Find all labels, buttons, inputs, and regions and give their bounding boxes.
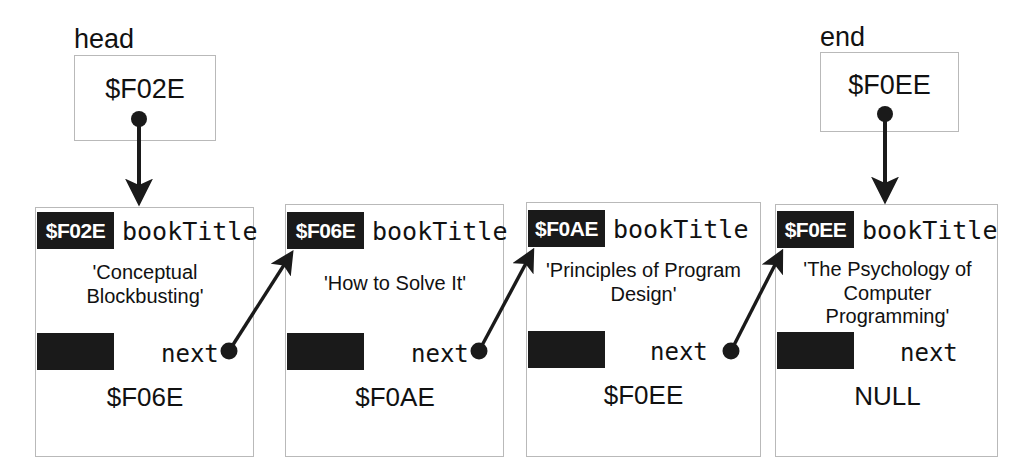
node-field-next-label: next [900,341,958,365]
node-filler-block [528,331,605,368]
linked-list-diagram: head $F02E end $F0EE $F02E bookTitle 'Co… [0,0,1033,457]
node-field-booktitle-label: bookTitle [372,219,507,244]
node-field-booktitle-label: bookTitle [862,218,997,243]
node-next-value: $F0EE [526,382,761,408]
node-booktitle-value: 'How to Solve It' [287,272,503,296]
node-booktitle-value: 'Principles of Program Design' [526,259,761,306]
node-field-booktitle-label: bookTitle [613,217,748,242]
node-filler-block [777,332,854,369]
node-filler-block [37,333,114,370]
node-filler-block [287,333,364,370]
node-next-value: $F06E [37,384,253,410]
node-next-value: $F0AE [287,384,503,410]
node-field-next-label: next [161,342,219,366]
node-address-block: $F0EE [777,211,854,248]
node-next-value: NULL [777,383,998,409]
node-address-block: $F02E [37,212,114,249]
node-address-block: $F0AE [528,210,605,247]
node-field-next-label: next [411,342,469,366]
head-pointer-value: $F02E [74,76,216,103]
end-pointer-value: $F0EE [820,72,959,99]
node-address-block: $F06E [287,212,364,249]
head-pointer-label: head [74,26,134,53]
node-field-next-label: next [650,340,708,364]
node-booktitle-value: 'The Psychology of Computer Programming' [777,258,998,329]
end-pointer-label: end [820,24,865,51]
node-field-booktitle-label: bookTitle [122,219,257,244]
node-booktitle-value: 'Conceptual Blockbusting' [37,261,253,308]
